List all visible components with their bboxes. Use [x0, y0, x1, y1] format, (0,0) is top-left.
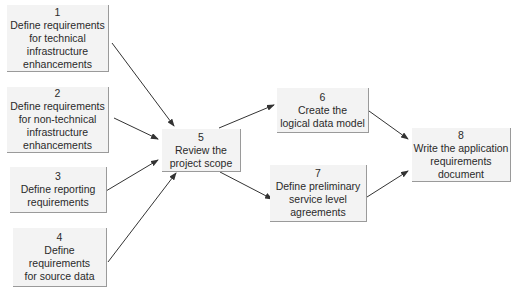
node-4: 4 Define requirements for source data	[13, 228, 107, 287]
node-1-number: 1	[55, 6, 61, 19]
arrow-3-to-5	[106, 160, 158, 191]
node-8-number: 8	[458, 129, 464, 142]
node-4-number: 4	[57, 231, 63, 244]
node-1-label: Define requirements for technical infras…	[10, 19, 105, 71]
node-3-number: 3	[55, 170, 61, 183]
arrow-2-to-5	[114, 118, 158, 139]
node-7-label: Define preliminary service level agreeme…	[276, 180, 361, 219]
arrow-7-to-8	[367, 171, 408, 197]
node-5: 5 Review the project scope	[162, 129, 241, 172]
arrow-6-to-8	[369, 111, 408, 139]
node-5-label: Review the project scope	[170, 144, 232, 170]
node-3-label: Define reporting requirements	[21, 183, 96, 209]
arrow-1-to-5	[112, 43, 174, 126]
node-7-number: 7	[315, 167, 321, 180]
node-2-label: Define requirements for non-technical in…	[10, 100, 105, 152]
node-8: 8 Write the application requirements doc…	[412, 128, 511, 182]
node-7: 7 Define preliminary service level agree…	[270, 165, 367, 222]
node-4-label: Define requirements for source data	[24, 244, 94, 283]
arrow-5-to-6	[219, 105, 274, 128]
node-3: 3 Define reporting requirements	[10, 167, 107, 213]
node-6-number: 6	[320, 91, 326, 104]
node-1: 1 Define requirements for technical infr…	[7, 5, 109, 72]
node-2: 2 Define requirements for non-technical …	[7, 87, 109, 153]
node-6-label: Create the logical data model	[280, 104, 365, 130]
node-5-number: 5	[198, 131, 204, 144]
node-6: 6 Create the logical data model	[277, 88, 369, 133]
node-2-number: 2	[55, 87, 61, 100]
arrow-4-to-5	[108, 173, 176, 262]
arrow-5-to-7	[220, 172, 272, 199]
node-8-label: Write the application requirements docum…	[414, 142, 509, 181]
